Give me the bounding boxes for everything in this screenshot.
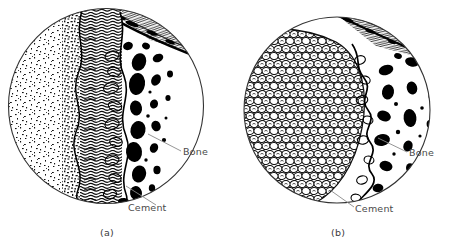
panel-a-artwork [0, 0, 226, 249]
panel-b-artwork [226, 0, 453, 249]
label-cement-panel-b: Cement [355, 203, 394, 214]
panel-a [0, 0, 226, 249]
region-interface-layer [74, 8, 128, 209]
label-cement-panel-a: Cement [128, 202, 167, 213]
caption-panel-a: (a) [100, 227, 114, 238]
caption-panel-b: (b) [331, 227, 345, 238]
figure-bone-cement-interface: Bone Cement Bone Cement (a) (b) [0, 0, 453, 249]
label-bone-panel-a: Bone [183, 146, 208, 157]
label-bone-panel-b: Bone [409, 147, 434, 158]
panel-b [226, 0, 453, 249]
